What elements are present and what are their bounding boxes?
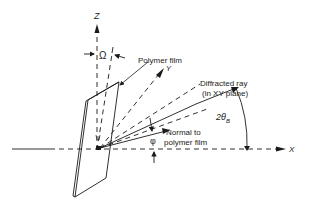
z-arrow-icon xyxy=(95,24,100,33)
two-theta-label: 2θB xyxy=(215,112,230,124)
diffracted-ray-label-2: (in XY plane) xyxy=(202,89,248,98)
polymer-film-label: Polymer film xyxy=(138,56,182,65)
diffraction-geometry-diagram: Z Ω Polymer film Y Diffracted ray (in XY… xyxy=(0,0,318,208)
origin-marker xyxy=(96,146,101,150)
z-axis-label: Z xyxy=(93,11,100,21)
normal-label-1: Normal to xyxy=(166,128,201,137)
z-axis xyxy=(95,24,100,150)
film-normal xyxy=(100,128,170,148)
polymer-film-leader xyxy=(120,62,148,85)
phi-label: φ xyxy=(150,136,156,146)
x-axis-label: X xyxy=(288,145,295,154)
y-axis-label: Y xyxy=(166,64,172,73)
normal-label-2: polymer film xyxy=(164,138,207,147)
omega-label: Ω xyxy=(99,50,107,61)
polymer-film-plate xyxy=(73,82,119,197)
diagram-svg: Z Ω Polymer film Y Diffracted ray (in XY… xyxy=(0,0,318,208)
tilted-film-axis xyxy=(97,54,112,150)
x-arrow-icon xyxy=(276,147,286,152)
two-theta-arrow-icon xyxy=(244,146,250,151)
diffracted-ray-label-1: Diffracted ray xyxy=(200,79,247,88)
